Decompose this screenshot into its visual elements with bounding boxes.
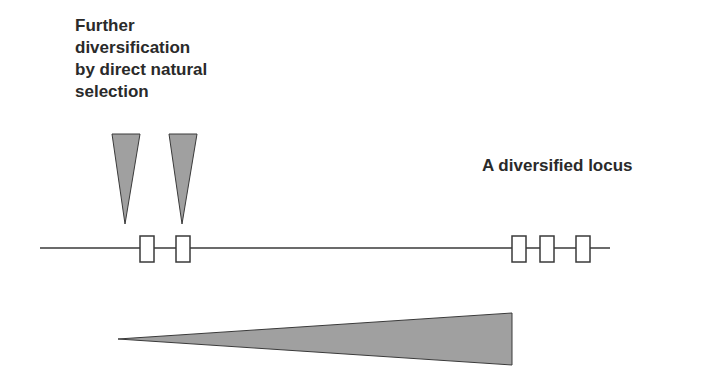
exon-2-box xyxy=(176,236,190,262)
exon-1-box xyxy=(140,236,154,262)
exon-5-box xyxy=(576,236,590,262)
diversity-gradient-wedge xyxy=(118,313,512,365)
locus-diagram xyxy=(0,0,710,387)
exon-4-box xyxy=(540,236,554,262)
wedge-2-selection-wedge xyxy=(169,134,197,224)
wedge-1-selection-wedge xyxy=(112,134,140,224)
exon-3-box xyxy=(512,236,526,262)
